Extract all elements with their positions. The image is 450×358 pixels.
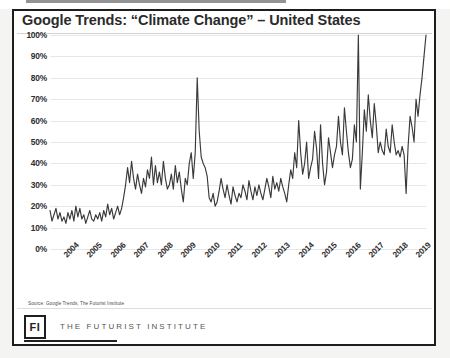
y-axis-tick-label: 70% — [31, 94, 47, 104]
fi-logo-box: FI — [24, 315, 46, 339]
y-axis-tick-label: 10% — [31, 223, 47, 233]
chart-frame: Google Trends: “Climate Change” – United… — [12, 9, 436, 346]
y-axis-tick-label: 80% — [31, 73, 47, 83]
y-axis-tick-label: 0% — [35, 244, 47, 254]
fi-logo-text: FI — [30, 321, 41, 333]
y-axis-tick-label: 90% — [31, 51, 47, 61]
page-top-strip — [0, 0, 450, 9]
y-axis-tick-label: 20% — [31, 201, 47, 211]
figure-root: Google Trends: “Climate Change” – United… — [0, 0, 450, 358]
y-axis-tick-label: 50% — [31, 137, 47, 147]
y-axis: 100%90%80%70%60%50%40%30%20%10%0% — [14, 35, 50, 249]
y-axis-tick-label: 100% — [26, 30, 47, 40]
page-title: Google Trends: “Climate Change” – United… — [22, 12, 361, 28]
plot-area: 100%90%80%70%60%50%40%30%20%10%0% 200420… — [14, 35, 434, 285]
footer-rule — [24, 340, 117, 342]
title-bar: Google Trends: “Climate Change” – United… — [14, 11, 434, 34]
y-axis-tick-label: 30% — [31, 180, 47, 190]
series-line — [50, 35, 426, 223]
y-axis-tick-label: 60% — [31, 116, 47, 126]
grid-area — [50, 35, 426, 249]
x-axis: 2004200520062007200820092010201120122013… — [50, 251, 426, 285]
title-divider — [17, 33, 432, 34]
trend-line-chart — [50, 35, 426, 249]
y-axis-tick-label: 40% — [31, 158, 47, 168]
source-note: Source: Google Trends, The Futurist Inst… — [28, 301, 124, 306]
organization-name: THE FUTURIST INSTITUTE — [60, 322, 207, 331]
source-divider — [17, 308, 432, 309]
